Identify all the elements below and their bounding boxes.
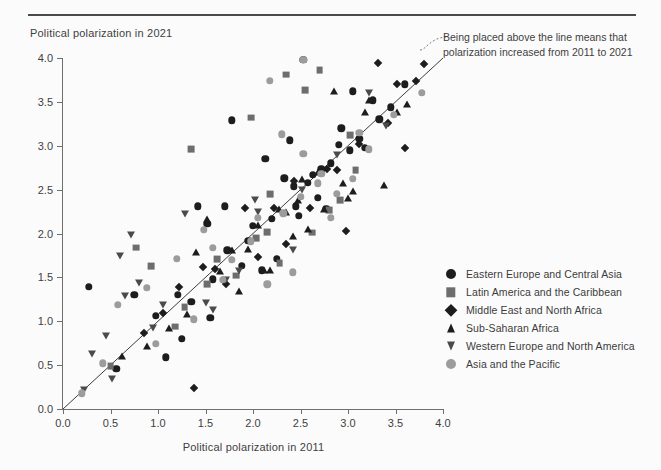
marker-circle-gray-icon	[254, 214, 261, 221]
marker-circle-gray-icon	[356, 129, 363, 136]
legend-symbol	[443, 357, 459, 370]
legend-label: Latin America and the Caribbean	[466, 286, 622, 298]
legend-label: Western Europe and North America	[466, 340, 635, 352]
legend-item[interactable]: Latin America and the Caribbean	[443, 284, 658, 300]
x-tick-label: 2.5	[293, 417, 308, 429]
x-tick-mark	[206, 409, 207, 414]
marker-circle-gray-icon	[349, 175, 356, 182]
marker-circle-gray-icon	[333, 190, 340, 197]
y-tick-mark	[57, 234, 62, 235]
marker-circle-gray-icon	[228, 256, 235, 263]
marker-triangle-up-icon	[447, 324, 455, 333]
y-tick-mark	[57, 277, 62, 278]
legend-item[interactable]: Eastern Europe and Central Asia	[443, 266, 658, 282]
marker-triangle-down-icon	[447, 342, 455, 351]
x-tick-mark	[301, 409, 302, 414]
x-tick-label: 3.0	[340, 417, 355, 429]
marker-circle-gray-icon	[209, 244, 216, 251]
y-tick-label: 2.0	[38, 228, 53, 240]
marker-circle-gray-icon	[446, 359, 456, 369]
marker-circle-gray-icon	[190, 316, 197, 323]
y-tick-label: 3.5	[38, 96, 53, 108]
legend-label: Sub-Saharan Africa	[466, 322, 559, 334]
marker-circle-gray-icon	[264, 281, 271, 288]
legend-label: Eastern Europe and Central Asia	[466, 268, 622, 280]
x-tick-mark	[443, 409, 444, 414]
marker-circle-gray-icon	[114, 301, 121, 308]
plot-area: 0.00.51.01.52.02.53.03.54.0 0.00.51.01.5…	[63, 58, 443, 409]
legend-item[interactable]: Western Europe and North America	[443, 338, 658, 354]
x-tick-label: 0.5	[103, 417, 118, 429]
y-tick-label: 1.0	[38, 315, 53, 327]
series-group	[63, 58, 443, 409]
legend-label: Asia and the Pacific	[466, 358, 560, 370]
x-tick-mark	[111, 409, 112, 414]
marker-circle-gray-icon	[314, 180, 321, 187]
x-tick-mark	[348, 409, 349, 414]
x-tick-label: 4.0	[435, 417, 450, 429]
legend-symbol	[443, 267, 459, 280]
scatter-points-layer	[63, 58, 443, 409]
marker-circle-gray-icon	[99, 360, 106, 367]
x-tick-mark	[158, 409, 159, 414]
y-tick-label: 4.0	[38, 52, 53, 64]
legend-symbol	[443, 303, 459, 316]
y-tick-label: 2.5	[38, 184, 53, 196]
marker-circle-gray-icon	[143, 284, 150, 291]
marker-circle-gray-icon	[418, 89, 425, 96]
marker-circle-gray-icon	[297, 193, 304, 200]
y-tick-mark	[57, 321, 62, 322]
legend-label: Middle East and North Africa	[466, 304, 602, 316]
y-tick-label: 0.5	[38, 359, 53, 371]
x-tick-mark	[63, 409, 64, 414]
chart-figure: Political polarization in 2021 Political…	[0, 0, 661, 470]
marker-diamond-icon	[445, 304, 457, 316]
x-tick-label: 1.0	[150, 417, 165, 429]
y-tick-mark	[57, 102, 62, 103]
marker-circle-gray-icon	[200, 226, 207, 233]
x-tick-label: 2.0	[245, 417, 260, 429]
top-divider-rule	[28, 14, 636, 16]
marker-square-icon	[446, 288, 455, 297]
legend-item[interactable]: Middle East and North Africa	[443, 302, 658, 318]
marker-circle-gray-icon	[78, 390, 85, 397]
x-tick-mark	[253, 409, 254, 414]
y-axis-title: Political polarization in 2021	[30, 27, 172, 39]
marker-circle-gray-icon	[318, 170, 325, 177]
legend-symbol	[443, 285, 459, 298]
marker-circle-gray-icon	[390, 111, 397, 118]
y-tick-mark	[57, 409, 62, 410]
y-tick-mark	[57, 146, 62, 147]
x-tick-label: 0.0	[55, 417, 70, 429]
marker-circle-gray-icon	[280, 210, 287, 217]
y-tick-label: 0.0	[38, 403, 53, 415]
marker-circle-gray-icon	[266, 77, 273, 84]
y-tick-label: 1.5	[38, 271, 53, 283]
y-tick-mark	[57, 190, 62, 191]
marker-circle-gray-icon	[300, 150, 307, 157]
marker-circle-gray-icon	[278, 131, 285, 138]
marker-circle-gray-icon	[219, 276, 226, 283]
marker-circle-gray-icon	[327, 214, 334, 221]
x-axis-title: Political polarization in 2011	[0, 441, 507, 453]
legend-symbol	[443, 339, 459, 352]
annotation-text: Being placed above the line means that p…	[443, 30, 643, 59]
marker-circle-gray-icon	[173, 255, 180, 262]
marker-circle-gray-icon	[365, 146, 372, 153]
y-tick-mark	[57, 365, 62, 366]
legend-item[interactable]: Asia and the Pacific	[443, 356, 658, 372]
chart-legend: Eastern Europe and Central AsiaLatin Ame…	[443, 266, 658, 374]
marker-circle-gray-icon	[152, 340, 159, 347]
x-tick-label: 1.5	[198, 417, 213, 429]
marker-circle-icon	[446, 269, 456, 279]
marker-circle-gray-icon	[300, 56, 307, 63]
legend-symbol	[443, 321, 459, 334]
y-tick-label: 3.0	[38, 140, 53, 152]
x-tick-mark	[396, 409, 397, 414]
legend-item[interactable]: Sub-Saharan Africa	[443, 320, 658, 336]
marker-circle-gray-icon	[289, 268, 296, 275]
y-tick-mark	[57, 58, 62, 59]
marker-circle-gray-icon	[247, 238, 254, 245]
x-tick-label: 3.5	[388, 417, 403, 429]
